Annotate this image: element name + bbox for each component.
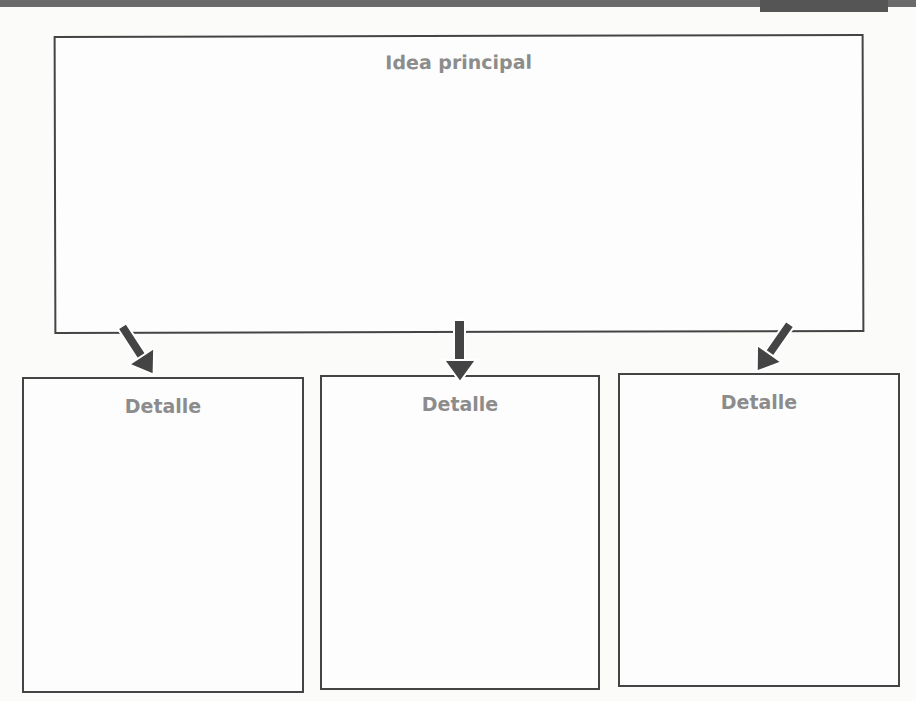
arrow-down-right-icon	[108, 318, 172, 386]
arrow-down-left-icon	[740, 318, 804, 386]
detail-title-3: Detalle	[620, 391, 898, 413]
detail-box-3: Detalle	[618, 373, 900, 687]
detail-title-1: Detalle	[24, 395, 302, 417]
main-idea-title: Idea principal	[56, 50, 862, 74]
detail-title-2: Detalle	[322, 393, 598, 415]
top-bar-tab	[760, 0, 888, 12]
arrow-down-icon	[440, 318, 480, 386]
main-idea-box: Idea principal	[54, 34, 865, 334]
detail-box-1: Detalle	[22, 377, 304, 693]
detail-box-2: Detalle	[320, 375, 600, 690]
